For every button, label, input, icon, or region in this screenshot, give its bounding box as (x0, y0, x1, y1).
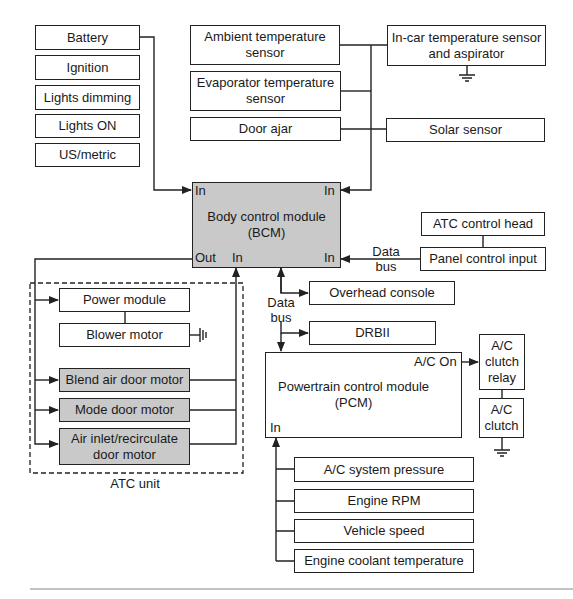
ignition-label: Ignition (67, 60, 109, 76)
us-metric-label: US/metric (59, 147, 116, 163)
ambient-temp-sensor-box: Ambient temperature sensor (190, 25, 340, 65)
blend-air-door-motor-label: Blend air door motor (66, 372, 184, 388)
pcm-port-in: In (270, 421, 281, 435)
engine-coolant-temp-label: Engine coolant temperature (304, 553, 464, 569)
bcm-port-out: Out (195, 251, 216, 265)
lights-dimming-label: Lights dimming (44, 90, 131, 106)
air-inlet-recirculate-box: Air inlet/recirculate door motor (59, 428, 190, 465)
ac-clutch-box: A/C clutch (479, 398, 524, 438)
lights-on-label: Lights ON (59, 118, 117, 134)
panel-control-input-label: Panel control input (429, 251, 537, 267)
evaporator-temp-label: Evaporator temperature sensor (197, 75, 334, 107)
solar-sensor-label: Solar sensor (429, 122, 502, 138)
solar-sensor-box: Solar sensor (386, 118, 545, 142)
lights-dimming-box: Lights dimming (35, 85, 140, 110)
mode-door-motor-label: Mode door motor (75, 402, 174, 418)
bcm-port-in-top-left: In (195, 184, 206, 198)
data-bus-label-right: Data bus (366, 244, 406, 274)
bcm-label: Body control module (BCM) (207, 209, 326, 241)
mode-door-motor-box: Mode door motor (59, 398, 190, 422)
evaporator-temp-sensor-box: Evaporator temperature sensor (190, 71, 341, 111)
ac-system-pressure-label: A/C system pressure (324, 462, 445, 478)
atc-control-head-box: ATC control head (421, 212, 545, 236)
bcm-port-in-bottom-right: In (324, 251, 335, 265)
blower-motor-box: Blower motor (59, 323, 190, 347)
power-module-box: Power module (59, 288, 190, 312)
blend-air-door-motor-box: Blend air door motor (59, 368, 190, 392)
battery-label: Battery (67, 30, 108, 46)
panel-control-input-box: Panel control input (420, 247, 546, 271)
data-bus-label-center: Data bus (262, 295, 300, 325)
bcm-port-in-top-right: In (324, 184, 335, 198)
overhead-console-box: Overhead console (309, 281, 455, 305)
ac-clutch-relay-box: A/C clutch relay (479, 334, 525, 390)
vehicle-speed-label: Vehicle speed (344, 523, 425, 539)
in-car-temp-sensor-box: In-car temperature sensor and aspirator (387, 25, 546, 66)
pcm-port-ac-on: A/C On (414, 355, 457, 369)
door-ajar-box: Door ajar (190, 117, 341, 141)
us-metric-box: US/metric (35, 143, 140, 167)
battery-box: Battery (35, 25, 140, 50)
engine-coolant-temp-box: Engine coolant temperature (294, 549, 474, 573)
door-ajar-label: Door ajar (239, 121, 292, 137)
atc-control-head-label: ATC control head (433, 216, 533, 232)
ignition-box: Ignition (35, 55, 140, 80)
blower-motor-label: Blower motor (86, 327, 163, 343)
engine-rpm-box: Engine RPM (294, 489, 474, 513)
pcm-label: Powertrain control module (PCM) (278, 379, 429, 411)
drbii-box: DRBII (309, 321, 436, 345)
ac-system-pressure-box: A/C system pressure (294, 457, 474, 482)
air-inlet-recirculate-label: Air inlet/recirculate door motor (71, 431, 178, 463)
overhead-console-label: Overhead console (329, 285, 435, 301)
ambient-temp-label: Ambient temperature sensor (204, 29, 325, 61)
atc-unit-label: ATC unit (100, 476, 170, 491)
ac-clutch-relay-label: A/C clutch relay (485, 338, 519, 386)
bcm-port-in-bottom-mid: In (232, 251, 243, 265)
in-car-temp-label: In-car temperature sensor and aspirator (392, 30, 542, 62)
power-module-label: Power module (83, 292, 166, 308)
engine-rpm-label: Engine RPM (348, 493, 421, 509)
ac-clutch-label: A/C clutch (485, 402, 519, 434)
vehicle-speed-box: Vehicle speed (294, 519, 474, 543)
drbii-label: DRBII (355, 325, 390, 341)
lights-on-box: Lights ON (35, 114, 140, 138)
